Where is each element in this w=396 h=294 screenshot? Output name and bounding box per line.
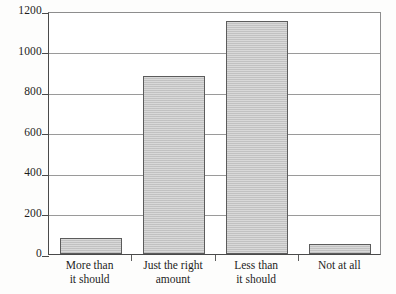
x-axis-category-label: Not at all [298, 258, 381, 272]
y-axis-tick [42, 256, 49, 257]
y-axis-tick [42, 134, 49, 135]
x-axis-category-label: More than it should [48, 258, 131, 286]
gridline [49, 215, 380, 216]
y-axis-tick-label: 400 [0, 166, 42, 178]
y-axis-tick [42, 215, 49, 216]
x-axis-category-label: Less than it should [215, 258, 298, 286]
y-axis-tick [42, 175, 49, 176]
gridline [49, 53, 380, 54]
y-axis-tick-label: 1000 [0, 45, 42, 57]
gridline [49, 175, 380, 176]
bar [143, 76, 205, 254]
x-axis-category-label: Just the right amount [131, 258, 214, 286]
y-axis-tick [42, 53, 49, 54]
plot-area [48, 12, 381, 255]
y-axis-tick [42, 94, 49, 95]
y-axis-tick-label: 600 [0, 126, 42, 138]
y-axis-tick-label: 0 [0, 247, 42, 259]
y-axis-tick-label: 1200 [0, 4, 42, 16]
y-axis-tick-label: 200 [0, 207, 42, 219]
bar [226, 21, 288, 254]
y-axis-tick-label: 800 [0, 85, 42, 97]
gridline [49, 94, 380, 95]
bar [309, 244, 371, 254]
bar-chart: 020040060080010001200 More than it shoul… [0, 0, 396, 294]
bar [60, 238, 122, 254]
gridline [49, 134, 380, 135]
y-axis-tick [42, 13, 49, 14]
